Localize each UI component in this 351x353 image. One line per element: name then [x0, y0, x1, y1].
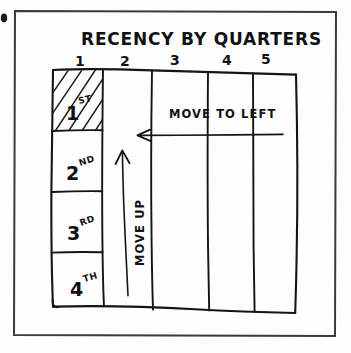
hand-drawn-diagram: RECENCY BY QUARTERS 1 2 3 4 5	[0, 0, 351, 353]
move-to-left-label: MOVE TO LEFT	[169, 107, 276, 121]
row-label-1-suffix: ST	[77, 93, 93, 106]
move-to-left-annotation: MOVE TO LEFT	[137, 107, 283, 141]
row-label-3-suffix: RD	[78, 213, 96, 228]
row-label-4: 4 TH	[70, 270, 99, 300]
row-label-3: 3 RD	[67, 213, 96, 244]
row-label-2: 2 ND	[66, 153, 96, 184]
move-to-left-arrow-shaft	[139, 134, 283, 135]
row-label-1-number: 1	[66, 102, 80, 124]
move-up-arrow-shaft	[122, 152, 128, 296]
grid-right-edge	[295, 75, 297, 313]
column-divider-1	[102, 69, 104, 306]
row-label-4-suffix: TH	[82, 270, 99, 284]
move-up-annotation: MOVE UP	[116, 150, 147, 295]
row-label-4-number: 4	[70, 278, 84, 300]
grid-left-edge	[51, 70, 53, 307]
grid-bottom-edge	[53, 306, 295, 313]
column-header-2: 2	[120, 53, 130, 69]
diagram-title: RECENCY BY QUARTERS	[81, 29, 322, 49]
column-header-1: 1	[75, 53, 85, 69]
row-divider-2	[52, 191, 103, 192]
row-divider-3	[52, 252, 103, 253]
move-up-label: MOVE UP	[133, 199, 147, 266]
column-header-3: 3	[170, 52, 180, 68]
row-label-2-number: 2	[66, 162, 80, 184]
row-label-3-number: 3	[67, 222, 81, 244]
diagram-canvas: RECENCY BY QUARTERS 1 2 3 4 5	[0, 0, 351, 353]
stray-ink-dot	[1, 14, 7, 23]
row-label-2-suffix: ND	[78, 153, 96, 167]
column-header-4: 4	[222, 52, 232, 68]
grid-top-edge	[53, 69, 296, 74]
column-header-5: 5	[261, 51, 271, 67]
column-divider-2	[151, 70, 153, 309]
